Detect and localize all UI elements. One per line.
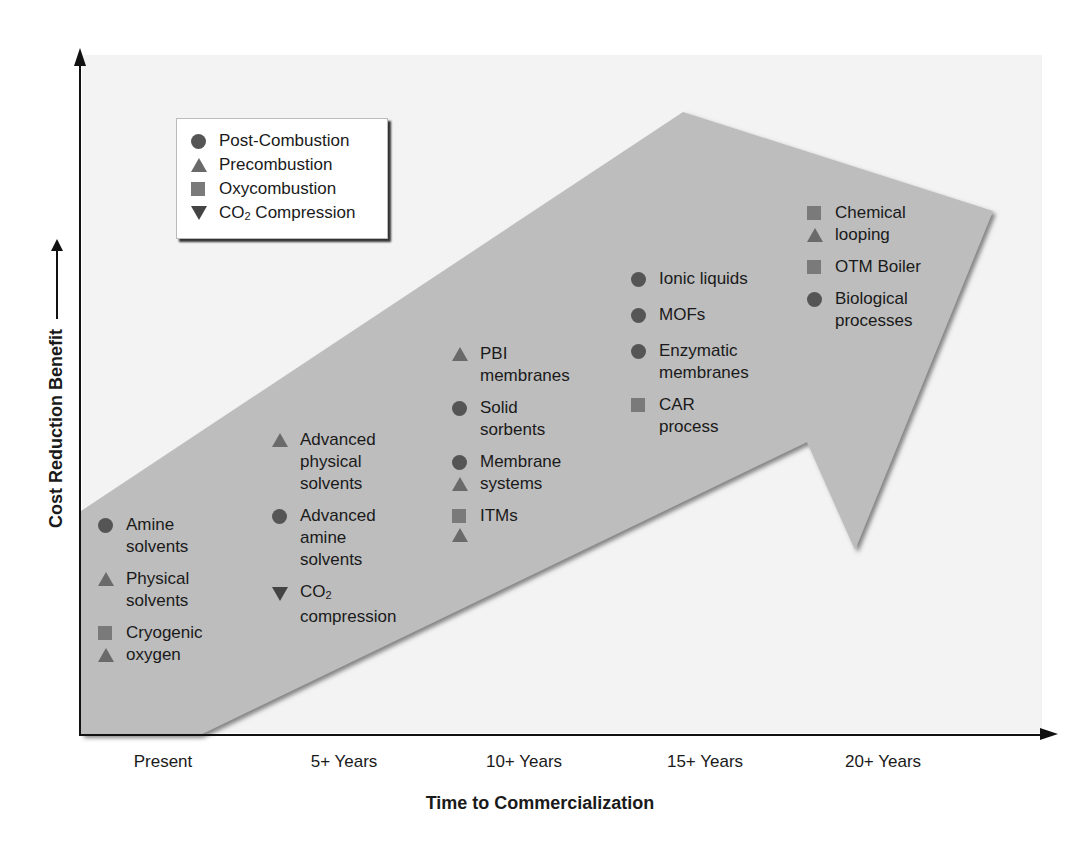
x-tick-5-years: 5+ Years: [284, 752, 404, 772]
y-axis-title: Cost Reduction Benefit: [46, 241, 67, 528]
square-marker-icon: [452, 508, 474, 524]
legend-item-oxycombustion: Oxycombustion: [191, 177, 387, 201]
circle-marker-icon: [631, 271, 653, 287]
square-marker-icon: [191, 181, 213, 197]
circle-marker-icon: [807, 291, 829, 307]
legend-item-co2-compression: CO2 Compression: [191, 201, 387, 225]
triangle-up-marker-icon: [452, 476, 474, 492]
tech-itms: ITMs: [452, 505, 570, 543]
tech-otm-boiler: OTM Boiler: [807, 256, 921, 278]
triangle-up-marker-icon: [272, 432, 294, 448]
circle-marker-icon: [631, 343, 653, 359]
triangle-up-marker-icon: [191, 157, 213, 173]
circle-marker-icon: [452, 400, 474, 416]
triangle-down-marker-icon: [272, 586, 294, 602]
column-20-years: Chemical looping OTM Boiler Biological p…: [807, 202, 921, 342]
square-marker-icon: [807, 259, 829, 275]
tech-co2-compression: CO2 compression: [272, 581, 396, 628]
x-tick-20-years: 20+ Years: [823, 752, 943, 772]
legend-item-post-combustion: Post-Combustion: [191, 129, 387, 153]
triangle-up-marker-icon: [807, 227, 829, 243]
tech-solid-sorbents: Solid sorbents: [452, 397, 570, 441]
y-axis-arrowhead: [74, 48, 86, 66]
x-axis-title: Time to Commercialization: [300, 793, 780, 814]
tech-car-process: CAR process: [631, 394, 749, 438]
triangle-up-marker-icon: [452, 346, 474, 362]
legend-label: Oxycombustion: [219, 179, 336, 199]
tech-membrane-systems: Membrane systems: [452, 451, 570, 495]
tech-advanced-amine-solvents: Advanced amine solvents: [272, 505, 396, 571]
tech-enzymatic-membranes: Enzymatic membranes: [631, 340, 749, 384]
column-5-years: Advanced physical solvents Advanced amin…: [272, 429, 396, 638]
legend: Post-Combustion Precombustion Oxycombust…: [176, 118, 388, 239]
column-15-years: Ionic liquids MOFs Enzymatic membranes C…: [631, 268, 749, 448]
x-tick-15-years: 15+ Years: [645, 752, 765, 772]
legend-label: Precombustion: [219, 155, 332, 175]
square-marker-icon: [631, 397, 653, 413]
circle-marker-icon: [191, 133, 213, 149]
triangle-up-marker-icon: [98, 571, 120, 587]
triangle-down-marker-icon: [191, 205, 213, 221]
tech-physical-solvents: Physical solvents: [98, 568, 203, 612]
column-present: Amine solvents Physical solvents Cryogen…: [98, 514, 203, 676]
circle-marker-icon: [98, 517, 120, 533]
legend-item-precombustion: Precombustion: [191, 153, 387, 177]
circle-marker-icon: [631, 307, 653, 323]
legend-label: CO2 Compression: [219, 203, 356, 223]
tech-amine-solvents: Amine solvents: [98, 514, 203, 558]
circle-marker-icon: [272, 508, 294, 524]
square-marker-icon: [98, 625, 120, 641]
x-tick-10-years: 10+ Years: [464, 752, 584, 772]
up-arrow-icon: [56, 241, 58, 319]
x-axis-arrowhead: [1040, 728, 1058, 740]
circle-marker-icon: [452, 454, 474, 470]
tech-biological-processes: Biological processes: [807, 288, 921, 332]
x-tick-present: Present: [103, 752, 223, 772]
tech-cryogenic-oxygen: Cryogenic oxygen: [98, 622, 203, 666]
square-marker-icon: [807, 205, 829, 221]
tech-pbi-membranes: PBI membranes: [452, 343, 570, 387]
tech-ionic-liquids: Ionic liquids: [631, 268, 749, 290]
tech-chemical-looping: Chemical looping: [807, 202, 921, 246]
legend-label: Post-Combustion: [219, 131, 349, 151]
tech-advanced-physical-solvents: Advanced physical solvents: [272, 429, 396, 495]
column-10-years: PBI membranes Solid sorbents Membrane sy…: [452, 343, 570, 553]
triangle-up-marker-icon: [98, 647, 120, 663]
tech-mofs: MOFs: [631, 304, 749, 326]
triangle-up-marker-icon: [452, 527, 474, 543]
